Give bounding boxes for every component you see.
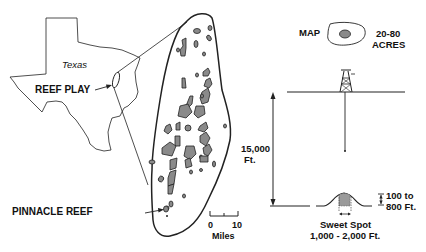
height-unit: 800 Ft. xyxy=(386,201,416,212)
reef-trend-map: PINNACLE REEF 0 10 Miles xyxy=(12,14,242,241)
arrow-up-icon xyxy=(271,92,276,99)
arrow-left-icon xyxy=(339,213,342,216)
pinnacle-reef-label: PINNACLE REEF xyxy=(12,206,93,217)
reef-play-label: REEF PLAY xyxy=(35,84,91,95)
acres-label: ACRES xyxy=(372,39,405,50)
connector-line-top xyxy=(118,22,187,72)
scale-min: 0 xyxy=(208,220,213,230)
texas-label: Texas xyxy=(62,59,87,70)
depth-unit: Ft. xyxy=(244,154,256,165)
cross-section: 15,000 Ft. 100 to 800 Ft. Sweet Spot 1,0… xyxy=(241,70,416,241)
sweet-spot-label: Sweet Spot xyxy=(320,219,372,230)
map-label: MAP xyxy=(299,27,321,38)
scale-bar: 0 10 Miles xyxy=(208,211,242,241)
depth-value: 15,000 xyxy=(241,143,270,154)
scale-unit: Miles xyxy=(212,231,235,241)
sweet-spot-shading xyxy=(339,194,350,207)
arrow-up-icon xyxy=(379,195,382,199)
well-bottom xyxy=(344,150,346,152)
arrow-down-icon xyxy=(271,199,276,206)
drilling-rig-icon xyxy=(340,70,355,92)
reef-play-diagram: Texas REEF PLAY xyxy=(0,0,426,252)
trend-outline xyxy=(152,14,231,237)
reef-play-outline xyxy=(111,71,121,88)
arrow-right-icon xyxy=(348,213,351,216)
reef-patches xyxy=(149,26,227,218)
inset-reef xyxy=(340,30,351,38)
height-range: 100 to xyxy=(386,190,414,201)
map-inset: MAP 20-80 ACRES xyxy=(299,22,405,50)
arrow-head-icon xyxy=(106,85,112,90)
acres-range: 20-80 xyxy=(376,28,400,39)
sweet-spot-range: 1,000 - 2,000 Ft. xyxy=(310,230,380,241)
arrow-head-icon xyxy=(158,208,164,213)
scale-max: 10 xyxy=(232,220,242,230)
arrow-down-icon xyxy=(379,201,382,205)
